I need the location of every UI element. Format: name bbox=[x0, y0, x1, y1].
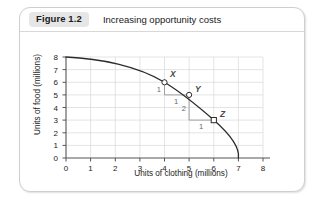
step-label-y-run: 1 bbox=[199, 122, 203, 131]
step-label-x-drop: 1 bbox=[157, 85, 161, 94]
y-tick-label: 0 bbox=[54, 154, 59, 163]
ppf-chart: 8 7 6 5 4 3 2 1 0 0 1 2 3 4 5 bbox=[20, 32, 306, 192]
y-tick-labels: 8 7 6 5 4 3 2 1 0 bbox=[54, 53, 59, 163]
point-marker-z bbox=[211, 118, 216, 123]
data-point-labels: X Y Z bbox=[169, 69, 226, 119]
figure-number-badge: Figure 1.2 bbox=[29, 12, 89, 27]
y-tick-label: 7 bbox=[54, 66, 59, 75]
point-marker-y bbox=[187, 92, 192, 97]
grid-lines bbox=[66, 57, 263, 158]
point-label-x: X bbox=[169, 69, 177, 79]
figure-card: Figure 1.2 Increasing opportunity costs … bbox=[19, 7, 305, 192]
y-tick-label: 2 bbox=[54, 129, 59, 138]
figure-title: Increasing opportunity costs bbox=[103, 15, 221, 25]
x-axis-label: Units of clothing (millions) bbox=[66, 169, 296, 178]
figure-screenshot: Figure 1.2 Increasing opportunity costs … bbox=[0, 0, 324, 207]
y-tick-label: 4 bbox=[54, 104, 59, 113]
step-label-y-drop: 2 bbox=[182, 104, 186, 113]
point-label-y: Y bbox=[195, 84, 202, 94]
y-tick-label: 1 bbox=[54, 141, 59, 150]
y-axis-label: Units of food (millions) bbox=[33, 40, 42, 150]
chart-area: Units of food (millions) Units of clothi… bbox=[20, 32, 304, 192]
point-label-z: Z bbox=[219, 109, 226, 119]
y-tick-label: 5 bbox=[54, 91, 59, 100]
point-marker-x bbox=[162, 80, 167, 85]
figure-header: Figure 1.2 Increasing opportunity costs bbox=[20, 8, 304, 32]
y-tick-label: 3 bbox=[54, 116, 59, 125]
y-tick-label: 6 bbox=[54, 78, 59, 87]
y-tick-label: 8 bbox=[54, 53, 59, 62]
step-label-x-run: 1 bbox=[174, 97, 178, 106]
